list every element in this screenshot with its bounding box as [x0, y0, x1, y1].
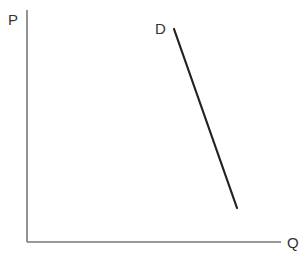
curve-label: D	[155, 21, 166, 36]
demand-diagram	[0, 0, 308, 256]
demand-curve	[174, 29, 237, 208]
y-axis-label: P	[8, 12, 18, 27]
x-axis-label: Q	[287, 235, 299, 250]
